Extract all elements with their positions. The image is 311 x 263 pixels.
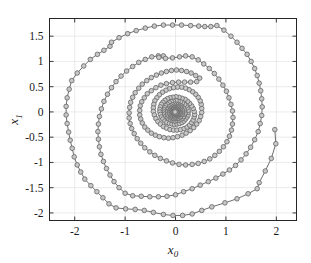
data-point-marker <box>217 149 222 154</box>
data-point-marker <box>112 179 117 184</box>
data-point-marker <box>97 144 102 149</box>
data-point-marker <box>161 23 166 28</box>
data-point-marker <box>95 189 100 194</box>
x-tick-label: 2 <box>273 225 279 237</box>
data-point-marker <box>257 81 262 86</box>
data-point-marker <box>252 66 257 71</box>
data-point-marker <box>119 74 124 79</box>
data-point-marker <box>190 186 195 191</box>
data-point-marker <box>255 73 260 78</box>
data-point-marker <box>213 153 218 158</box>
data-point-marker <box>215 23 220 28</box>
data-point-marker <box>117 35 122 40</box>
data-point-marker <box>221 172 226 177</box>
data-point-marker <box>114 206 119 211</box>
y-axis-label-subscript: 1 <box>14 114 24 119</box>
data-point-marker <box>225 139 230 144</box>
data-point-marker <box>135 136 140 141</box>
data-point-marker <box>132 131 137 136</box>
data-point-marker <box>179 23 184 28</box>
data-point-marker <box>64 113 69 118</box>
data-point-marker <box>144 78 149 83</box>
data-point-marker <box>257 180 262 185</box>
y-tick-label: -0.5 <box>25 131 43 143</box>
data-point-marker <box>256 129 261 134</box>
data-point-marker <box>157 55 162 60</box>
data-point-marker <box>239 158 244 163</box>
data-point-marker <box>258 121 263 126</box>
data-point-marker <box>65 95 70 100</box>
data-point-marker <box>245 52 250 57</box>
data-point-marker <box>207 66 212 71</box>
data-point-marker <box>259 96 264 101</box>
data-point-marker <box>108 173 113 178</box>
data-point-marker <box>184 69 189 74</box>
data-point-marker <box>128 100 133 105</box>
data-point-marker <box>260 105 265 110</box>
data-point-marker <box>104 166 109 171</box>
data-point-marker <box>81 64 86 69</box>
data-point-marker <box>70 146 75 151</box>
data-point-marker <box>65 121 70 126</box>
data-point-marker <box>201 62 206 67</box>
data-point-marker <box>227 168 232 173</box>
data-point-marker <box>127 111 132 116</box>
data-point-marker <box>235 40 240 45</box>
data-point-marker <box>66 130 71 135</box>
data-point-marker <box>194 79 199 84</box>
data-point-marker <box>159 83 164 88</box>
data-point-marker <box>78 170 83 175</box>
data-point-marker <box>153 153 158 158</box>
data-point-marker <box>69 78 74 83</box>
data-point-marker <box>199 208 204 213</box>
y-tick-label: 1 <box>38 55 44 67</box>
data-point-marker <box>209 24 214 29</box>
data-point-marker <box>145 91 150 96</box>
data-point-marker <box>177 162 182 167</box>
data-point-marker <box>64 104 69 109</box>
data-point-marker <box>124 69 129 74</box>
data-point-marker <box>196 24 201 29</box>
data-point-marker <box>82 177 87 182</box>
data-point-marker <box>158 156 163 161</box>
data-point-marker <box>182 80 187 85</box>
data-point-marker <box>72 155 77 160</box>
data-point-marker <box>188 23 193 28</box>
data-point-marker <box>183 163 188 168</box>
data-point-marker <box>217 77 222 82</box>
data-point-marker <box>177 55 182 60</box>
data-point-marker <box>129 126 134 131</box>
data-point-marker <box>252 137 257 142</box>
data-point-marker <box>99 107 104 112</box>
data-point-marker <box>179 68 184 73</box>
figure-container: -2-1012 1.510.50-0.5-1-1.5-2 x0 x1 <box>0 0 311 263</box>
data-point-marker <box>229 128 234 133</box>
data-point-marker <box>227 134 232 139</box>
data-point-marker <box>273 127 278 132</box>
data-point-marker <box>202 24 207 29</box>
y-tick-label: -1 <box>34 156 44 168</box>
data-point-marker <box>149 88 154 93</box>
data-point-marker <box>117 185 122 190</box>
y-tick-label: -2 <box>34 207 44 219</box>
data-point-marker <box>188 80 193 85</box>
x-tick-label: -2 <box>70 225 80 237</box>
data-point-marker <box>231 115 236 120</box>
data-point-marker <box>101 159 106 164</box>
data-point-marker <box>109 40 114 45</box>
data-point-marker <box>138 141 143 146</box>
data-point-marker <box>154 73 159 78</box>
data-point-marker <box>88 57 93 62</box>
data-point-marker <box>161 212 166 217</box>
data-point-marker <box>166 136 171 141</box>
spiral-phase-plot: -2-1012 1.510.50-0.5-1-1.5-2 x0 x1 <box>0 0 311 263</box>
data-point-marker <box>133 207 138 212</box>
data-point-marker <box>173 110 178 115</box>
data-point-marker <box>75 71 80 76</box>
data-point-marker <box>89 183 94 188</box>
data-point-marker <box>224 89 229 94</box>
data-point-marker <box>174 68 179 73</box>
data-point-marker <box>196 161 201 166</box>
data-point-marker <box>173 192 178 197</box>
data-point-marker <box>175 134 180 139</box>
